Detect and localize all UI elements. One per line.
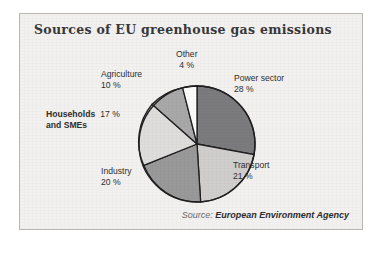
pie-label-other-name: Other [176,49,198,59]
pie-label-industry-name: Industry [101,166,132,176]
pie-label-other: Other 4 % [176,49,198,71]
pie-slice-power-sector [197,86,255,155]
source-name: European Environment Agency [215,210,349,220]
pie-label-power-sector: Power sector 28 % [234,73,284,95]
pie-label-transport: Transport 21 % [233,160,269,182]
pie-label-agriculture-value: 10 % [101,80,142,91]
figure-root: Sources of EU greenhouse gas emissions [0,0,382,256]
pie-label-power-sector-value: 28 % [234,84,284,95]
source-prefix: Source: [182,210,213,220]
pie-chart: Other 4 % Power sector 28 % Transport 21… [20,14,364,231]
pie-label-households-and-smes: Households17 % and SMEs [46,109,120,131]
pie-label-transport-value: 21 % [233,171,269,182]
pie-label-agriculture-name: Agriculture [101,69,142,79]
pie-label-transport-name: Transport [233,160,269,170]
pie-label-households-line2: and SMEs [46,120,87,130]
pie-label-households-line1: Households [46,109,95,119]
source-attribution: Source: European Environment Agency [182,210,349,220]
pie-label-households-value: 17 % [100,109,120,119]
pie-label-other-value: 4 % [176,60,198,71]
pie-label-industry: Industry 20 % [101,166,132,188]
pie-label-agriculture: Agriculture 10 % [101,69,142,91]
pie-label-power-sector-name: Power sector [234,73,284,83]
pie-label-industry-value: 20 % [101,177,132,188]
chart-panel: Sources of EU greenhouse gas emissions [19,13,363,230]
